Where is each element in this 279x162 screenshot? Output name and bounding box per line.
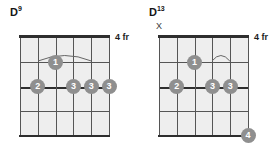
chord-name: D9 <box>10 5 22 18</box>
fret-line <box>20 111 109 112</box>
string-line <box>56 38 57 135</box>
finger-dot: 4 <box>241 128 256 143</box>
finger-dot: 3 <box>84 79 99 94</box>
fret-line <box>159 111 248 112</box>
chord-diagram-d9: D9123334 fr <box>0 0 139 162</box>
muted-string-icon: X <box>156 21 162 32</box>
finger-dot: 3 <box>205 79 220 94</box>
string-line <box>20 38 21 135</box>
finger-dot: 3 <box>102 79 117 94</box>
chord-name: D13 <box>149 5 165 18</box>
finger-dot: 1 <box>48 55 63 70</box>
string-line <box>159 38 160 135</box>
finger-dot: 3 <box>223 79 238 94</box>
chord-root: D <box>149 6 157 18</box>
chord-sheet: D9123334 fr D13X123344 fr <box>0 0 279 162</box>
chord-root: D <box>10 6 18 18</box>
fret-position-label: 4 fr <box>254 32 268 42</box>
chord-diagram-d13: D13X123344 fr <box>139 0 278 162</box>
fret-line <box>158 135 249 137</box>
string-line <box>195 38 196 135</box>
fret-line <box>19 135 110 137</box>
string-line <box>248 38 249 135</box>
nut-line <box>158 35 249 38</box>
finger-dot: 3 <box>66 79 81 94</box>
chord-extension: 13 <box>157 5 165 12</box>
chord-extension: 9 <box>18 5 22 12</box>
fret-line <box>159 62 248 63</box>
fret-position-label: 4 fr <box>115 32 129 42</box>
fret-line <box>20 62 109 63</box>
finger-dot: 1 <box>187 55 202 70</box>
nut-line <box>19 35 110 38</box>
